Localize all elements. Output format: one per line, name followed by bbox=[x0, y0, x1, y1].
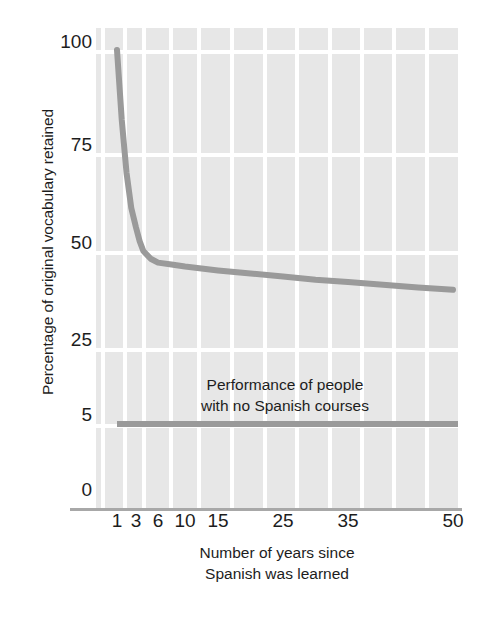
x-tick-10: 10 bbox=[174, 510, 195, 532]
x-axis-tick-labels: 1 3 6 10 15 25 35 50 bbox=[96, 510, 458, 540]
y-tick-5: 5 bbox=[36, 405, 92, 424]
x-tick-1: 1 bbox=[112, 510, 123, 532]
y-tick-25: 25 bbox=[36, 330, 92, 349]
retention-chart-figure: Percentage of original vocabulary retain… bbox=[0, 0, 480, 620]
x-tick-35: 35 bbox=[337, 510, 358, 532]
y-tick-50: 50 bbox=[36, 233, 92, 252]
y-axis-tick-labels: 100 75 50 25 5 0 bbox=[32, 0, 92, 620]
y-tick-75: 75 bbox=[36, 135, 92, 154]
x-axis-title-line-1: Number of years since bbox=[96, 543, 458, 564]
x-tick-50: 50 bbox=[442, 510, 463, 532]
y-tick-0: 0 bbox=[36, 480, 92, 499]
x-tick-3: 3 bbox=[131, 510, 142, 532]
x-tick-15: 15 bbox=[207, 510, 228, 532]
chart-svg bbox=[96, 28, 458, 508]
x-axis-title-line-2: Spanish was learned bbox=[96, 564, 458, 585]
retention-curve bbox=[117, 50, 453, 290]
y-tick-100: 100 bbox=[36, 32, 92, 51]
x-tick-6: 6 bbox=[153, 510, 164, 532]
plot-area: Performance of people with no Spanish co… bbox=[96, 28, 458, 508]
x-tick-25: 25 bbox=[272, 510, 293, 532]
x-axis-title: Number of years since Spanish was learne… bbox=[96, 543, 458, 585]
